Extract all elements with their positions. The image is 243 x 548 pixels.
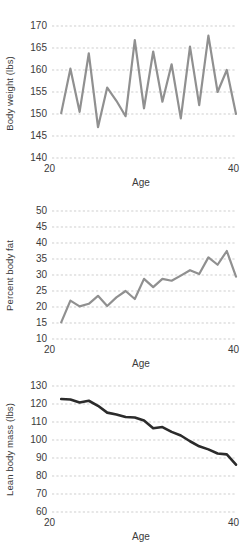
- plot-area: [0, 370, 243, 548]
- data-series-line: [61, 399, 236, 465]
- data-series-line: [61, 36, 236, 128]
- chart-panel-percent-body-fat: Percent body fat1015202530354045502040Ag…: [0, 190, 243, 370]
- plot-area: [0, 190, 243, 370]
- figure-panel-stack: Body weight (lbs)14014515015516016517020…: [0, 0, 243, 548]
- x-axis-label: Age: [132, 359, 150, 369]
- x-axis-tick-label: 40: [228, 345, 239, 355]
- x-axis-tick-label: 20: [44, 518, 55, 528]
- plot-area: [0, 0, 243, 190]
- chart-panel-body-weight: Body weight (lbs)14014515015516016517020…: [0, 0, 243, 190]
- x-axis-tick-label: 20: [44, 345, 55, 355]
- x-axis-tick-label: 40: [228, 518, 239, 528]
- data-series-line: [61, 251, 236, 322]
- chart-panel-lean-body-mass: Lean body mass (lbs)60708090100110120130…: [0, 370, 243, 548]
- x-axis-tick-label: 40: [228, 164, 239, 174]
- x-axis-label: Age: [132, 532, 150, 542]
- x-axis-label: Age: [132, 178, 150, 188]
- x-axis-tick-label: 20: [44, 164, 55, 174]
